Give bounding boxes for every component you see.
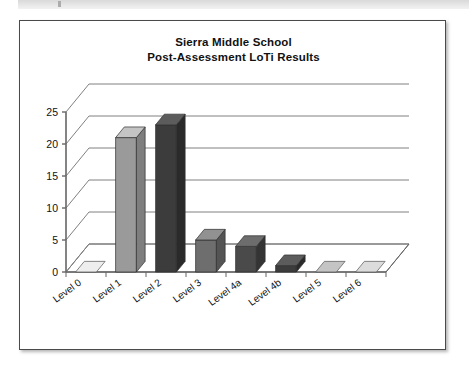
ytick-label-20: 20 (46, 138, 58, 150)
bar-group-2 (156, 114, 186, 272)
category-label-5: Level 4b (246, 276, 283, 307)
ytick-label-25: 25 (46, 106, 58, 118)
bar-front-face-4 (236, 246, 257, 272)
bar-front-face-2 (156, 125, 177, 272)
chart-plot-area: 0510152025Level 0Level 1Level 2Level 3Le… (20, 21, 447, 351)
ytick-label-10: 10 (46, 202, 58, 214)
ytick-label-5: 5 (52, 234, 58, 246)
bar-group-4 (236, 236, 266, 272)
scan-strip-mark (58, 1, 61, 7)
category-label-6: Level 5 (291, 276, 324, 304)
category-label-2: Level 2 (131, 276, 164, 304)
bar-front-face-1 (116, 138, 137, 272)
bar-front-face-5 (276, 266, 297, 272)
category-label-1: Level 1 (91, 276, 124, 304)
bar-chart-svg: 0510152025Level 0Level 1Level 2Level 3Le… (20, 21, 447, 351)
bar-front-face-3 (196, 240, 217, 272)
category-label-7: Level 6 (331, 276, 364, 304)
gridline-depth-connector-25 (66, 84, 89, 112)
bar-group-1 (116, 127, 146, 272)
page-scan-strip (18, 0, 469, 9)
gridline-depth-connector-5 (66, 212, 89, 240)
ytick-label-0: 0 (52, 266, 58, 278)
bar-side-face-2 (176, 114, 185, 272)
gridline-depth-connector-15 (66, 148, 89, 176)
gridline-depth-connector-20 (66, 116, 89, 144)
ytick-label-15: 15 (46, 170, 58, 182)
bar-side-face-1 (136, 127, 145, 272)
gridline-depth-connector-10 (66, 180, 89, 208)
bar-group-3 (196, 229, 226, 272)
category-label-4: Level 4a (206, 276, 243, 307)
chart-card: Sierra Middle School Post-Assessment LoT… (19, 20, 446, 350)
category-label-3: Level 3 (171, 276, 204, 304)
category-label-0: Level 0 (51, 276, 84, 304)
